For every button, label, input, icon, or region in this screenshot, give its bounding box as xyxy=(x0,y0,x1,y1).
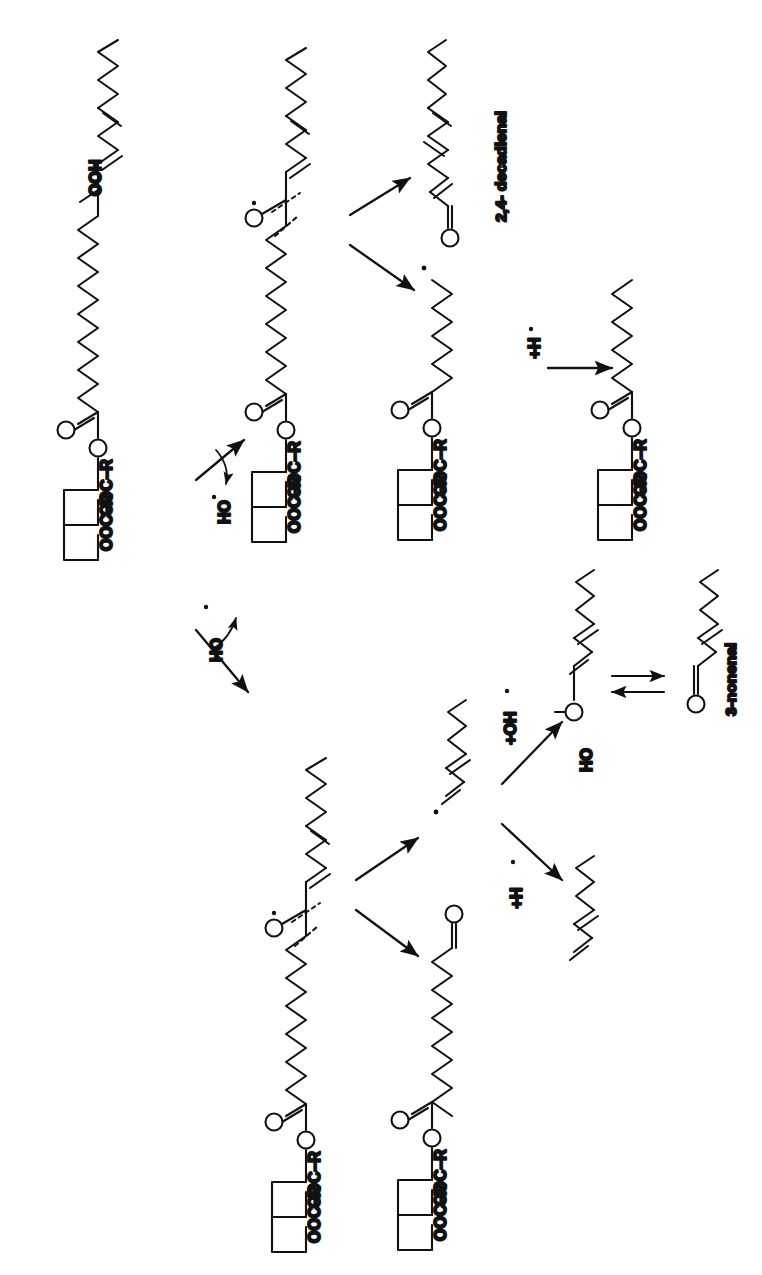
label-hydroxyl-radical-upper: HO xyxy=(216,500,233,524)
arrow-lower-to-oxo-glyceride xyxy=(356,910,418,956)
radical-dot-add-hydrogen-lower xyxy=(511,860,515,864)
label-ester-ooc-r-sn3-start: OOC–R xyxy=(98,494,115,551)
molecule-nonadiene xyxy=(570,856,598,960)
label-add-hydrogen-radical-upper: +H xyxy=(526,338,543,359)
label-product-2-4-decadienal: 2,4- decadienal xyxy=(492,111,509,222)
molecule-nonenyl-radical xyxy=(442,700,470,804)
label-ester-ooc-r-sn3-radical: OOC–R xyxy=(432,474,449,531)
label-ester-ooc-r-sn3-lower: OOC–R xyxy=(306,1186,323,1243)
label-add-hydroxyl-radical: +OH xyxy=(502,711,519,744)
arrow-upper-to-glyceryl-radical xyxy=(350,245,414,290)
radical-dot-add-hydrogen-upper xyxy=(529,327,533,331)
label-add-hydrogen-radical-lower: +H xyxy=(508,888,525,909)
label-ester-ooc-r-sn3-upper: OOC–R xyxy=(286,476,303,533)
radical-dot-alkoxyl-upper xyxy=(252,201,256,205)
radical-dot-add-hydroxyl xyxy=(505,689,509,693)
label-hydroxyl-radical-lower: HO xyxy=(208,638,225,662)
radical-dot-hydroxyl-lower xyxy=(204,605,208,609)
arrow-lower-to-nonenyl-radical xyxy=(356,838,418,880)
radical-dot-alkoxyl-lower xyxy=(272,911,276,915)
radical-dot-nonenyl xyxy=(434,810,439,815)
arrow-upper-to-decadienal xyxy=(350,178,410,215)
radical-dot-hydroxyl-upper xyxy=(212,495,216,499)
label-hydroperoxide: OOH xyxy=(87,160,104,196)
radical-dot-glyceryl-upper xyxy=(422,266,427,271)
molecule-decadienal xyxy=(424,40,459,247)
molecule-oxo-glyceride-lower xyxy=(392,906,463,1251)
label-enol-hydroxyl: HO xyxy=(578,748,595,772)
label-product-3-nonenal: 3-nonenal xyxy=(722,643,739,716)
label-ester-ooc-r-sn3-oxo: OOC–R xyxy=(432,1184,449,1241)
reaction-scheme-figure: OOH OOC–R OOC–R HO HO xyxy=(0,0,762,1275)
molecule-3-nonenal xyxy=(688,570,723,713)
equilibrium-arrows-enol-nonenal xyxy=(612,676,664,692)
arrow-nonenyl-to-nonadiene xyxy=(502,824,562,880)
scheme-canvas: OOH OOC–R OOC–R HO HO xyxy=(0,0,762,1275)
label-ester-ooc-r-sn3-saturated: OOC–R xyxy=(632,474,649,531)
arrow-to-upper-branch xyxy=(196,440,244,484)
molecule-enol-intermediate xyxy=(555,570,598,721)
